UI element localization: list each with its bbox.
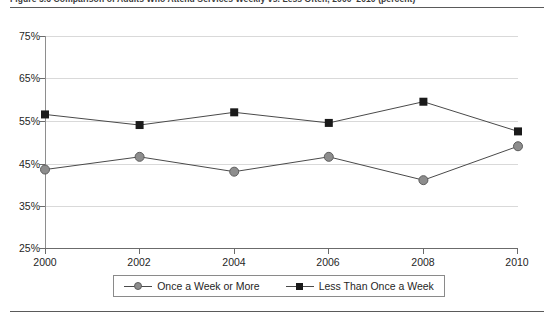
x-axis-line [45,248,518,249]
x-tick-2004 [234,249,235,254]
data-series-layer [0,0,554,321]
y-axis-line [45,36,46,249]
y-tick-35 [39,206,45,207]
x-axis-label-2006: 2006 [316,256,339,268]
data-point-0-2 [230,167,239,176]
legend-item-less-than-once-a-week[interactable]: Less Than Once a Week [286,280,434,292]
x-axis-label-2010: 2010 [505,256,528,268]
x-tick-2002 [139,249,140,254]
y-axis-label-75: 75% [2,30,40,42]
x-tick-2010 [517,249,518,254]
circle-marker-icon [124,280,152,292]
data-point-0-3 [324,152,333,161]
data-point-0-5 [514,142,523,151]
series-line-1 [45,102,518,132]
y-tick-75 [39,36,45,37]
top-rule [10,7,544,8]
data-point-1-4 [419,98,427,106]
x-axis-label-2000: 2000 [33,256,56,268]
y-axis-label-25: 25% [2,242,40,254]
y-axis-labels: 75% 65% 55% 45% 35% 25% [0,0,40,321]
y-axis-label-65: 65% [2,72,40,84]
x-axis-label-2002: 2002 [127,256,150,268]
legend-label-once-a-week-or-more: Once a Week or More [157,280,260,292]
x-axis-label-2008: 2008 [411,256,434,268]
legend-label-less-than-once-a-week: Less Than Once a Week [319,280,434,292]
gridline-55 [45,121,518,122]
figure-title: Figure 5.6 Comparison of Adults Who Atte… [10,0,544,4]
y-tick-55 [39,121,45,122]
y-axis-label-55: 55% [2,115,40,127]
chart-legend: Once a Week or More Less Than Once a Wee… [113,275,445,297]
x-tick-2000 [45,249,46,254]
legend-item-once-a-week-or-more[interactable]: Once a Week or More [124,280,260,292]
y-axis-label-35: 35% [2,200,40,212]
gridline-75 [45,36,518,37]
data-point-0-4 [419,176,428,185]
y-tick-45 [39,164,45,165]
x-tick-2006 [328,249,329,254]
y-tick-65 [39,78,45,79]
data-point-0-1 [135,152,144,161]
data-point-1-5 [514,127,522,135]
square-marker-icon [286,280,314,292]
data-point-1-2 [230,108,238,116]
gridline-65 [45,78,518,79]
gridline-45 [45,164,518,165]
bottom-rule [10,311,544,312]
y-axis-label-45: 45% [2,158,40,170]
figure-container: Figure 5.6 Comparison of Adults Who Atte… [0,0,554,321]
x-axis-label-2004: 2004 [222,256,245,268]
data-point-1-1 [136,121,144,129]
gridline-35 [45,206,518,207]
x-tick-2008 [423,249,424,254]
